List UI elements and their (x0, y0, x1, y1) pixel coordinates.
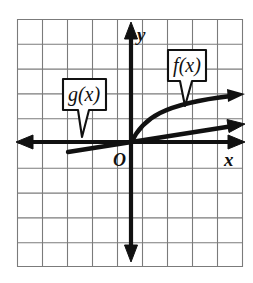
origin-label: O (113, 150, 126, 170)
coordinate-plane-svg: f(x) g(x) y x O (0, 0, 253, 283)
callout-f-label: f(x) (173, 54, 201, 77)
curve-g (68, 120, 245, 153)
x-axis-label: x (223, 149, 234, 170)
callout-f: f(x) (168, 50, 206, 106)
callout-g-label: g(x) (68, 83, 101, 106)
y-axis-arrow-down (125, 245, 138, 262)
y-axis-arrow-up (125, 22, 138, 39)
graph-figure: f(x) g(x) y x O (0, 0, 253, 283)
callout-g: g(x) (63, 79, 106, 137)
y-axis-label: y (135, 24, 146, 45)
x-axis-arrow-left (16, 135, 33, 149)
